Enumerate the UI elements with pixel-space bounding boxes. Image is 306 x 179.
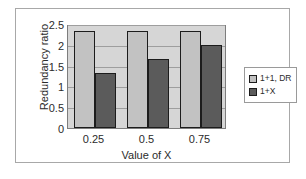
y-tick-label: 0 bbox=[34, 123, 64, 135]
x-tick-label: 0.75 bbox=[189, 133, 210, 145]
legend-label: 1+1, DR bbox=[260, 74, 291, 83]
figure-frame: Redundancy ratio 00.511.522.5 0.250.50.7… bbox=[15, 8, 290, 163]
legend-swatch-icon bbox=[249, 75, 257, 83]
y-tick-label: 1 bbox=[34, 81, 64, 93]
legend-swatch-icon bbox=[249, 88, 257, 96]
y-tick-label: 2 bbox=[34, 40, 64, 52]
bar-group bbox=[174, 26, 227, 128]
bar-series-container bbox=[68, 26, 225, 128]
legend-item: 1+1, DR bbox=[249, 72, 291, 85]
y-axis-tick-labels: 00.511.522.5 bbox=[34, 25, 64, 129]
legend-label: 1+X bbox=[260, 87, 275, 96]
y-tick-label: 1.5 bbox=[34, 61, 64, 73]
x-tick-label: 0.5 bbox=[139, 133, 154, 145]
chart-figure: Redundancy ratio 00.511.522.5 0.250.50.7… bbox=[0, 0, 306, 179]
bar bbox=[127, 31, 148, 128]
x-axis-title: Value of X bbox=[67, 149, 226, 161]
bar bbox=[201, 45, 222, 128]
y-tick-label: 0.5 bbox=[34, 102, 64, 114]
bar bbox=[148, 59, 169, 128]
plot-area bbox=[67, 25, 226, 129]
bar bbox=[74, 31, 95, 128]
x-tick-label: 0.25 bbox=[83, 133, 104, 145]
bar bbox=[180, 31, 201, 128]
x-axis-tick-labels: 0.250.50.75 bbox=[67, 133, 226, 149]
bar bbox=[95, 73, 116, 128]
bar-group bbox=[68, 26, 121, 128]
y-tick-label: 2.5 bbox=[34, 19, 64, 31]
legend-item: 1+X bbox=[249, 85, 291, 98]
chart-legend: 1+1, DR1+X bbox=[244, 67, 297, 103]
bar-group bbox=[121, 26, 174, 128]
